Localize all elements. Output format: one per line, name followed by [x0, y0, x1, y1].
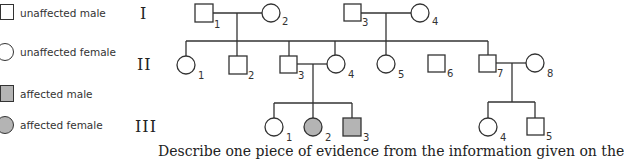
id-label-II-7: 7 — [497, 68, 503, 79]
id-label-I-1: 1 — [214, 19, 220, 30]
id-label-III-4: 4 — [500, 132, 506, 143]
individual-II-3 — [280, 56, 297, 73]
individual-I-3 — [344, 4, 361, 21]
individual-II-6 — [428, 55, 445, 72]
individual-I-2 — [262, 4, 280, 22]
id-label-II-8: 8 — [547, 68, 553, 79]
id-label-I-2: 2 — [282, 16, 288, 27]
id-label-II-4: 4 — [348, 69, 354, 80]
id-label-III-2: 2 — [325, 132, 331, 143]
individual-II-4 — [327, 55, 345, 73]
id-label-III-1: 1 — [286, 132, 292, 143]
id-label-II-1: 1 — [198, 70, 204, 81]
individual-II-7 — [479, 55, 496, 72]
individual-III-4 — [479, 118, 497, 136]
id-label-II-3: 3 — [298, 70, 304, 81]
individual-III-2 — [304, 118, 322, 136]
id-label-II-5: 5 — [398, 69, 404, 80]
individual-II-5 — [377, 55, 395, 73]
individual-III-5 — [527, 118, 544, 135]
id-label-III-5: 5 — [546, 131, 552, 142]
individual-III-3 — [343, 118, 361, 136]
individual-II-2 — [229, 56, 247, 74]
individual-I-1 — [195, 4, 213, 22]
individual-II-8 — [526, 54, 544, 72]
id-label-I-3: 3 — [362, 17, 368, 28]
id-label-II-2: 2 — [248, 70, 254, 81]
individual-I-4 — [411, 4, 429, 22]
individual-II-1 — [177, 56, 195, 74]
id-label-III-3: 3 — [363, 132, 369, 143]
individual-III-1 — [265, 118, 283, 136]
id-label-I-4: 4 — [432, 16, 438, 27]
question-caption: Describe one piece of evidence from the … — [158, 143, 624, 159]
id-label-II-6: 6 — [447, 68, 453, 79]
